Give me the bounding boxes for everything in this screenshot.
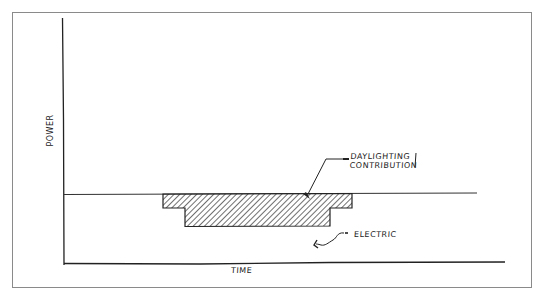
power-time-sketch — [0, 0, 546, 302]
daylighting-label-line1: DAYLIGHTING — [350, 152, 418, 161]
x-axis-label: TIME — [231, 266, 253, 275]
x-axis — [64, 262, 505, 264]
daylighting-region — [163, 194, 352, 227]
y-axis-label: POWER — [46, 114, 55, 146]
daylighting-leader — [307, 159, 346, 196]
y-axis — [63, 18, 65, 265]
electric-squiggle — [316, 233, 344, 245]
daylighting-label: DAYLIGHTING CONTRIBUTION — [349, 152, 418, 170]
electric-label: ELECTRIC — [354, 230, 397, 239]
daylighting-label-line2: CONTRIBUTION — [349, 161, 417, 170]
